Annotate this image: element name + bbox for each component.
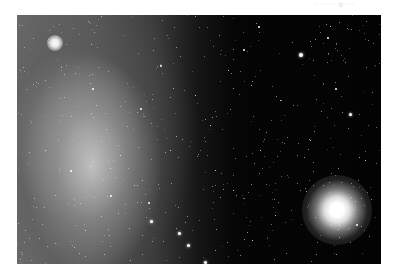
faint-star bbox=[164, 129, 165, 130]
faint-star bbox=[287, 137, 288, 138]
faint-star bbox=[70, 241, 71, 242]
faint-star bbox=[153, 238, 154, 239]
faint-star bbox=[192, 230, 193, 231]
faint-star bbox=[288, 177, 289, 178]
image-caption: ·· ······ ·g····· bbox=[315, 0, 354, 7]
faint-star bbox=[144, 94, 145, 95]
faint-star bbox=[49, 87, 50, 88]
faint-star bbox=[273, 162, 274, 163]
faint-star bbox=[319, 26, 320, 27]
faint-star bbox=[195, 16, 196, 17]
star bbox=[258, 26, 260, 28]
astronomy-photo bbox=[17, 15, 381, 264]
faint-star bbox=[125, 101, 126, 102]
faint-star bbox=[300, 190, 301, 191]
faint-star bbox=[24, 47, 25, 48]
faint-star bbox=[344, 58, 345, 59]
faint-star bbox=[74, 247, 75, 248]
faint-star bbox=[159, 188, 160, 189]
faint-star bbox=[149, 208, 150, 209]
bright-nebula bbox=[47, 35, 63, 51]
star bbox=[92, 88, 94, 90]
faint-star bbox=[254, 163, 255, 164]
faint-star bbox=[242, 195, 243, 196]
faint-star bbox=[123, 180, 124, 181]
faint-star bbox=[358, 180, 359, 181]
faint-star bbox=[341, 197, 342, 198]
faint-star bbox=[235, 40, 236, 41]
star bbox=[349, 113, 352, 116]
faint-star bbox=[91, 195, 92, 196]
star bbox=[160, 65, 162, 67]
faint-star bbox=[220, 197, 221, 198]
faint-star bbox=[207, 155, 208, 156]
faint-star bbox=[339, 237, 340, 238]
faint-star bbox=[31, 260, 32, 261]
faint-star bbox=[167, 35, 168, 36]
faint-star bbox=[96, 25, 97, 26]
faint-star bbox=[152, 94, 153, 95]
faint-star bbox=[304, 157, 305, 158]
faint-star bbox=[309, 180, 310, 181]
faint-star bbox=[355, 201, 356, 202]
faint-star bbox=[249, 245, 250, 246]
faint-star bbox=[227, 113, 228, 114]
faint-star bbox=[256, 23, 257, 24]
faint-star bbox=[75, 73, 76, 74]
star bbox=[243, 49, 245, 51]
star bbox=[150, 220, 153, 223]
faint-star bbox=[212, 186, 213, 187]
faint-star bbox=[209, 129, 210, 130]
faint-star bbox=[278, 202, 279, 203]
star bbox=[148, 202, 150, 204]
faint-star bbox=[379, 63, 380, 64]
faint-star bbox=[30, 120, 31, 121]
faint-star bbox=[297, 105, 298, 106]
star bbox=[275, 215, 276, 216]
faint-star bbox=[36, 207, 37, 208]
faint-star bbox=[334, 245, 335, 246]
faint-star bbox=[203, 257, 204, 258]
faint-star bbox=[259, 32, 260, 33]
faint-star bbox=[251, 184, 252, 185]
faint-star bbox=[146, 101, 147, 102]
faint-star bbox=[313, 171, 314, 172]
faint-star bbox=[171, 183, 172, 184]
faint-star bbox=[94, 197, 95, 198]
faint-star bbox=[97, 47, 98, 48]
faint-star bbox=[259, 129, 260, 130]
faint-star bbox=[213, 202, 214, 203]
faint-star bbox=[91, 44, 92, 45]
faint-star bbox=[310, 41, 311, 42]
faint-star bbox=[92, 174, 93, 175]
star bbox=[110, 195, 112, 197]
faint-star bbox=[341, 55, 342, 56]
faint-star bbox=[275, 212, 276, 213]
faint-star bbox=[298, 143, 299, 144]
faint-star bbox=[213, 191, 214, 192]
faint-star bbox=[154, 38, 155, 39]
faint-star bbox=[376, 127, 377, 128]
faint-star bbox=[316, 254, 317, 255]
faint-star bbox=[102, 241, 103, 242]
faint-star bbox=[21, 77, 22, 78]
star bbox=[210, 125, 211, 126]
faint-star bbox=[308, 149, 309, 150]
faint-star bbox=[348, 76, 349, 77]
faint-star bbox=[98, 19, 99, 20]
faint-star bbox=[375, 217, 376, 218]
faint-star bbox=[328, 54, 329, 55]
faint-star bbox=[332, 218, 333, 219]
faint-star bbox=[22, 254, 23, 255]
faint-star bbox=[143, 116, 144, 117]
faint-star bbox=[308, 205, 309, 206]
star bbox=[204, 261, 207, 264]
star bbox=[85, 230, 86, 231]
faint-star bbox=[359, 187, 360, 188]
star bbox=[365, 160, 366, 161]
faint-star bbox=[84, 224, 85, 225]
star bbox=[187, 244, 190, 247]
star bbox=[195, 95, 196, 96]
faint-star bbox=[331, 60, 332, 61]
star bbox=[215, 170, 216, 171]
